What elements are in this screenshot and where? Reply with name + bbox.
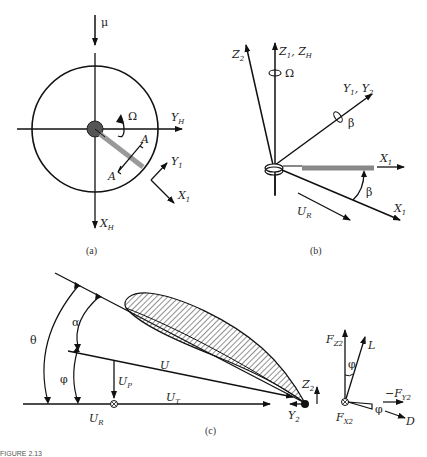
y1-y2-label: Y1, Y2 xyxy=(343,82,374,97)
ur-label-b: UR xyxy=(297,205,312,220)
neg-fy2-label: −FY2 xyxy=(385,387,411,402)
xh-label: XH xyxy=(99,217,115,232)
theta-label: θ xyxy=(30,334,37,347)
section-a-top: A xyxy=(140,133,149,146)
drag-label: D xyxy=(405,415,415,428)
u-label: U xyxy=(160,359,170,372)
beta-label-angle: β xyxy=(366,186,372,199)
omega-label-b: Ω xyxy=(285,67,294,80)
ur-label-c: UR xyxy=(89,412,104,427)
fx2-label: FX2 xyxy=(335,411,354,426)
airfoil xyxy=(125,293,305,403)
phi-label: φ xyxy=(60,373,68,386)
x1-axis xyxy=(151,180,174,203)
omega-label: Ω xyxy=(128,110,137,123)
x1-label-bottom: X1 xyxy=(393,202,406,217)
alpha-arc xyxy=(77,296,100,347)
lift-label: L xyxy=(367,339,375,352)
y1-label: Y1 xyxy=(171,155,183,170)
z2-label-c: Z2 xyxy=(301,378,315,393)
z2-axis xyxy=(246,45,273,165)
panel-a-label: (a) xyxy=(86,245,97,257)
yh-label: YH xyxy=(171,111,185,126)
x1-label: X1 xyxy=(177,189,190,204)
z2-label: Z2 xyxy=(231,48,245,63)
y1-y2-axis xyxy=(275,94,372,165)
phi-arc xyxy=(74,352,78,402)
fz2-label: FZ2 xyxy=(325,333,344,348)
ut-label: UT xyxy=(166,391,181,406)
panel-c: U UT UP UR θ α φ Z2 Y2 FZ2 xyxy=(23,273,415,437)
y1-axis xyxy=(151,163,167,180)
panel-b: Z1, ZH Ω Z2 Y1, Y2 β X1 X1 β UR (b) xyxy=(231,43,406,257)
phi-label-lift: φ xyxy=(348,358,356,371)
alpha-label: α xyxy=(72,316,80,329)
section-line xyxy=(118,142,143,172)
drag-angle-triangle xyxy=(348,402,372,409)
rotor-blade-kinematics-diagram: μ Ω A A YH XH Y1 X1 (a) Z1, ZH xyxy=(0,0,427,457)
panel-b-label: (b) xyxy=(310,245,322,257)
z1-zh-label: Z1, ZH xyxy=(278,45,313,60)
panel-a: μ Ω A A YH XH Y1 X1 (a) xyxy=(17,15,190,257)
drag-vector xyxy=(385,411,405,418)
trailing-point xyxy=(301,400,309,408)
panel-c-label: (c) xyxy=(205,425,216,437)
phi-label-drag: φ xyxy=(375,403,383,416)
up-label: UP xyxy=(118,375,132,390)
x1-label-top: X1 xyxy=(379,152,392,167)
beta-label-rot: β xyxy=(348,117,354,130)
section-a-bottom: A xyxy=(107,170,116,183)
y2-label: Y2 xyxy=(288,409,300,424)
mu-label: μ xyxy=(101,16,108,29)
figure-caption: FIGURE 2.13 xyxy=(0,450,42,457)
phi-arc-force xyxy=(345,374,353,376)
